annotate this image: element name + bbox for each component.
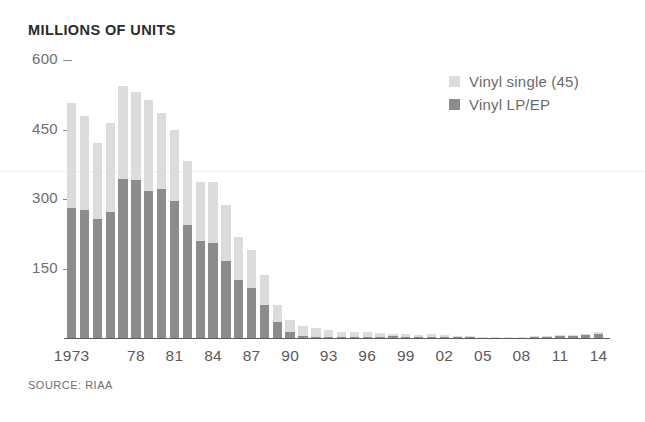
bar-segment-vinyl-lp-ep <box>67 208 76 338</box>
bar-segment-vinyl-single <box>144 100 153 190</box>
bar-group <box>234 237 243 338</box>
chart-legend: Vinyl single (45)Vinyl LP/EP <box>449 70 579 116</box>
bar-group <box>273 305 282 338</box>
bar-segment-vinyl-single <box>285 320 294 333</box>
bar-segment-vinyl-single <box>118 86 127 179</box>
bar-group <box>144 100 153 338</box>
bar-group <box>118 86 127 338</box>
legend-item: Vinyl single (45) <box>449 70 579 92</box>
bar-segment-vinyl-single <box>555 335 564 336</box>
legend-swatch-vinyl-lp-ep <box>449 99 460 110</box>
bar-segment-vinyl-single <box>183 161 192 224</box>
bar-segment-vinyl-single <box>568 335 577 336</box>
bar-segment-vinyl-single <box>594 332 603 334</box>
bar-segment-vinyl-single <box>324 330 333 337</box>
bar-segment-vinyl-single <box>414 335 423 337</box>
bar-group <box>183 161 192 338</box>
bar-group <box>170 130 179 338</box>
legend-item-label: Vinyl LP/EP <box>469 96 550 113</box>
bar-segment-vinyl-single <box>273 305 282 322</box>
bar-segment-vinyl-single <box>196 182 205 241</box>
y-axis-tick-label: 600 <box>0 50 58 67</box>
bar-segment-vinyl-lp-ep <box>196 241 205 338</box>
bar-segment-vinyl-single <box>401 334 410 336</box>
legend-item: Vinyl LP/EP <box>449 93 579 115</box>
bar-segment-vinyl-lp-ep <box>144 191 153 338</box>
bar-group <box>80 116 89 338</box>
bar-segment-vinyl-lp-ep <box>93 219 102 338</box>
bar-segment-vinyl-single <box>363 332 372 337</box>
bar-segment-vinyl-single <box>221 205 230 261</box>
bar-segment-vinyl-single <box>298 326 307 336</box>
bar-segment-vinyl-single <box>234 237 243 280</box>
bar-segment-vinyl-single <box>67 103 76 209</box>
bar-segment-vinyl-lp-ep <box>208 243 217 338</box>
bar-group <box>196 182 205 338</box>
bar-segment-vinyl-lp-ep <box>183 225 192 338</box>
bar-group <box>260 275 269 338</box>
bar-group <box>221 205 230 338</box>
bar-group <box>131 92 140 338</box>
bar-segment-vinyl-single <box>427 334 436 337</box>
bar-group <box>298 326 307 338</box>
bar-segment-vinyl-single <box>93 143 102 219</box>
x-axis-tick-label: 1973 <box>42 347 102 365</box>
bar-segment-vinyl-lp-ep <box>131 180 140 338</box>
bar-group <box>285 320 294 338</box>
bar-group <box>106 123 115 338</box>
bar-group <box>157 113 166 338</box>
y-axis-tick-label: 150 <box>0 259 58 276</box>
y-axis-tick-label: 450 <box>0 120 58 137</box>
y-axis-tick-label: 300 <box>0 189 58 206</box>
y-axis-tick-mark <box>63 60 72 61</box>
x-axis-baseline <box>64 338 610 339</box>
bar-segment-vinyl-single <box>542 336 551 337</box>
bar-segment-vinyl-lp-ep <box>221 261 230 338</box>
bar-segment-vinyl-single <box>337 332 346 337</box>
bar-segment-vinyl-lp-ep <box>234 280 243 338</box>
bar-segment-vinyl-single <box>440 335 449 337</box>
bar-segment-vinyl-single <box>157 113 166 189</box>
bar-segment-vinyl-single <box>260 275 269 305</box>
bar-segment-vinyl-single <box>80 116 89 211</box>
bar-segment-vinyl-single <box>388 334 397 337</box>
bar-segment-vinyl-single <box>311 328 320 337</box>
bar-segment-vinyl-single <box>208 182 217 243</box>
bar-segment-vinyl-single <box>106 123 115 211</box>
plot-area: 600450300150 197378818487909396990205081… <box>0 0 645 422</box>
x-axis-tick-label: 14 <box>569 347 629 365</box>
bar-group <box>93 143 102 338</box>
bar-segment-vinyl-single <box>581 334 590 335</box>
bar-segment-vinyl-lp-ep <box>273 322 282 338</box>
bar-group <box>311 328 320 338</box>
source-note: SOURCE: RIAA <box>28 379 113 391</box>
bar-segment-vinyl-lp-ep <box>260 305 269 338</box>
bar-segment-vinyl-lp-ep <box>106 212 115 338</box>
chart-figure: MILLIONS OF UNITS 600450300150 197378818… <box>0 0 645 422</box>
bar-group <box>208 182 217 338</box>
bar-segment-vinyl-single <box>247 250 256 288</box>
bar-segment-vinyl-single <box>170 130 179 201</box>
bar-segment-vinyl-lp-ep <box>170 201 179 338</box>
bar-group <box>67 103 76 338</box>
legend-swatch-vinyl-single <box>449 76 460 87</box>
bar-segment-vinyl-single <box>131 92 140 180</box>
bar-segment-vinyl-lp-ep <box>157 189 166 338</box>
bar-segment-vinyl-single <box>350 332 359 337</box>
bar-segment-vinyl-lp-ep <box>118 179 127 338</box>
bar-segment-vinyl-single <box>375 333 384 336</box>
bar-segment-vinyl-lp-ep <box>80 210 89 338</box>
bar-group <box>324 330 333 338</box>
bar-segment-vinyl-single <box>530 336 539 337</box>
bar-segment-vinyl-lp-ep <box>247 288 256 338</box>
bar-group <box>247 250 256 338</box>
legend-item-label: Vinyl single (45) <box>469 73 579 90</box>
